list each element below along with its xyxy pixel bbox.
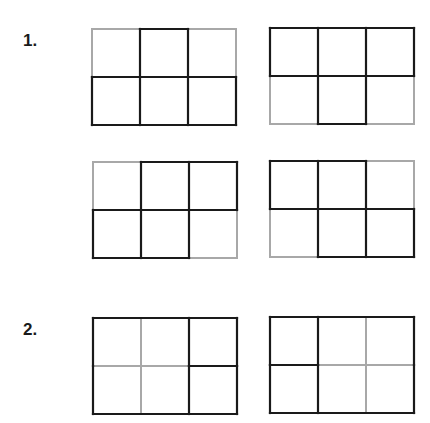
problem-2-label: 2.	[23, 320, 37, 340]
grid-1-3	[93, 162, 237, 258]
grid-1-1	[92, 29, 236, 125]
grid-2-1	[93, 318, 237, 414]
grid-1-4	[270, 161, 414, 257]
grid-2-2	[270, 317, 414, 413]
grid-1-2	[270, 28, 414, 124]
problem-1-label: 1.	[23, 31, 37, 51]
